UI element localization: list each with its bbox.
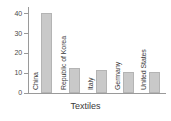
category-label-republic-of-korea: Republic of Korea	[60, 36, 67, 90]
bar-chart: 0 10 20 30 40 China Republic of Korea It…	[0, 0, 171, 121]
bar-italy	[96, 70, 107, 93]
x-axis-title: Textiles	[0, 101, 171, 111]
bar-united-states	[149, 72, 160, 93]
bar-germany	[123, 72, 134, 93]
x-axis-spine	[28, 93, 166, 94]
y-tick-label-30: 30	[14, 30, 22, 37]
bar-republic-of-korea	[69, 68, 80, 93]
category-label-italy: Italy	[87, 78, 94, 90]
category-label-germany: Germany	[114, 62, 121, 90]
y-tick-label-0: 0	[18, 89, 22, 96]
y-tick-label-10: 10	[14, 69, 22, 76]
y-tick-label-40: 40	[14, 10, 22, 17]
bar-china	[41, 13, 52, 93]
y-tick-label-20: 20	[14, 49, 22, 56]
category-label-united-states: United States	[140, 49, 147, 90]
category-label-china: China	[32, 72, 39, 90]
plot-area: China Republic of Korea Italy Germany Un…	[29, 8, 166, 93]
